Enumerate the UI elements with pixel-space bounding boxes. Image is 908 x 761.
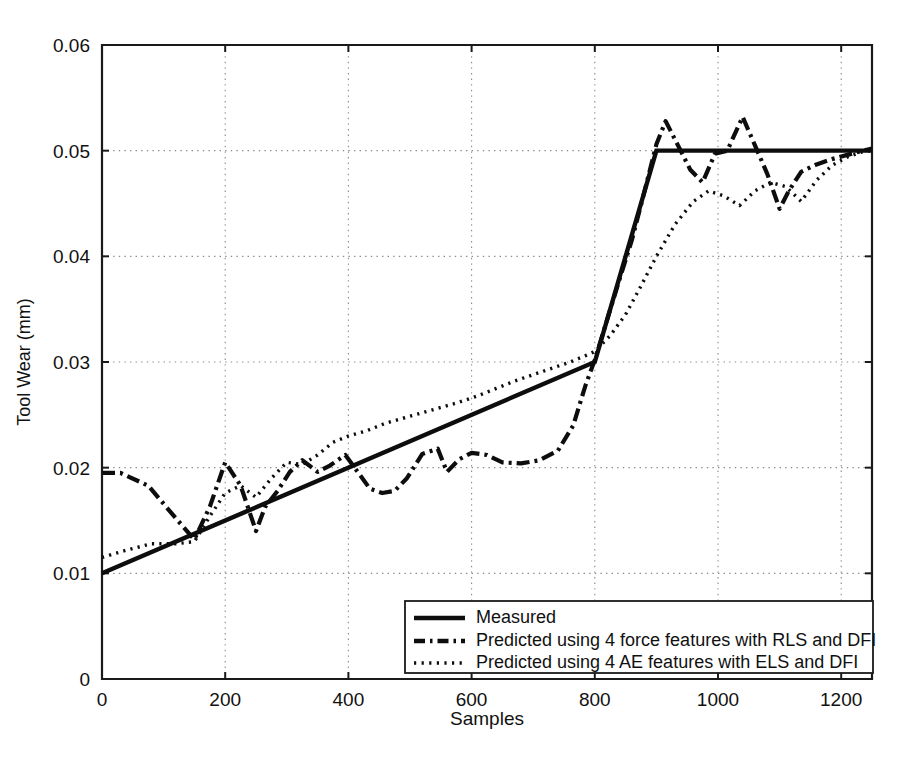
y-tick-label: 0 [79, 669, 90, 690]
x-tick-label: 400 [333, 689, 365, 710]
y-axis-title: Tool Wear (mm) [14, 298, 34, 426]
x-tick-label: 800 [579, 689, 611, 710]
y-tick-label: 0.05 [53, 141, 90, 162]
x-tick-label: 0 [97, 689, 108, 710]
x-tick-label: 200 [209, 689, 241, 710]
chart-legend: MeasuredPredicted using 4 force features… [405, 601, 876, 673]
legend-label: Predicted using 4 AE features with ELS a… [476, 652, 858, 672]
tool-wear-line-chart: 00.010.020.030.040.050.06020040060080010… [0, 0, 908, 761]
x-tick-label: 1000 [697, 689, 739, 710]
x-axis-title: Samples [450, 708, 524, 729]
x-tick-label: 1200 [820, 689, 862, 710]
legend-label: Predicted using 4 force features with RL… [476, 630, 876, 650]
y-tick-label: 0.02 [53, 458, 90, 479]
chart-figure: 00.010.020.030.040.050.06020040060080010… [0, 0, 908, 761]
y-tick-label: 0.03 [53, 352, 90, 373]
y-tick-label: 0.06 [53, 35, 90, 56]
x-tick-label: 600 [456, 689, 488, 710]
y-tick-label: 0.01 [53, 563, 90, 584]
y-tick-label: 0.04 [53, 246, 90, 267]
legend-label: Measured [476, 607, 556, 627]
